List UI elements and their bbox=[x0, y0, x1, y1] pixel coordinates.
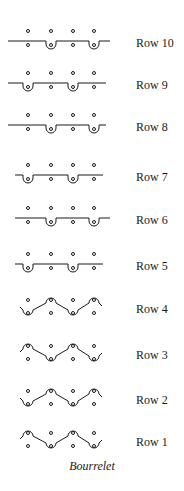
needle-icon bbox=[27, 128, 30, 131]
needle-icon bbox=[72, 445, 75, 448]
row-label: Row 6 bbox=[136, 213, 168, 227]
needle-icon bbox=[72, 44, 75, 47]
needle-icon bbox=[72, 390, 75, 393]
yarn-tail bbox=[99, 440, 102, 443]
needle-icon bbox=[50, 221, 53, 224]
needle-icon bbox=[50, 178, 53, 181]
needle-icon bbox=[27, 253, 30, 256]
yarn-path bbox=[78, 394, 89, 401]
yarn-path bbox=[78, 303, 89, 310]
yarn-path bbox=[78, 349, 89, 356]
stitch-row bbox=[20, 344, 102, 361]
needle-icon bbox=[27, 86, 30, 89]
needle-icon bbox=[27, 72, 30, 75]
needle-icon bbox=[27, 44, 30, 47]
needle-icon bbox=[27, 178, 30, 181]
needle-icon bbox=[72, 207, 75, 210]
yarn-tail bbox=[20, 398, 23, 401]
yarn-path bbox=[15, 175, 103, 183]
needle-icon bbox=[27, 267, 30, 270]
yarn-path bbox=[33, 436, 46, 443]
needle-icon bbox=[50, 345, 53, 348]
needle-icon bbox=[72, 86, 75, 89]
yarn-tail bbox=[20, 436, 23, 439]
yarn-tail bbox=[20, 349, 23, 352]
needle-icon bbox=[50, 128, 53, 131]
needle-icon bbox=[27, 207, 30, 210]
row-label: Row 2 bbox=[136, 393, 168, 407]
needle-icon bbox=[50, 44, 53, 47]
row-label: Row 10 bbox=[136, 36, 174, 50]
stitch-row bbox=[15, 164, 103, 184]
row-label: Row 8 bbox=[136, 120, 168, 134]
yarn-path bbox=[56, 436, 68, 443]
needle-icon bbox=[93, 390, 96, 393]
needle-icon bbox=[27, 390, 30, 393]
row-label: Row 5 bbox=[136, 259, 168, 273]
needle-icon bbox=[50, 253, 53, 256]
needle-icon bbox=[50, 207, 53, 210]
yarn-path bbox=[8, 125, 106, 133]
stitch-row bbox=[20, 389, 102, 406]
needle-icon bbox=[72, 72, 75, 75]
needle-icon bbox=[93, 432, 96, 435]
needle-icon bbox=[93, 345, 96, 348]
needle-icon bbox=[72, 221, 75, 224]
needle-icon bbox=[72, 128, 75, 131]
needle-icon bbox=[50, 299, 53, 302]
row-label: Row 1 bbox=[136, 435, 168, 449]
yarn-path bbox=[8, 41, 110, 49]
needle-icon bbox=[93, 403, 96, 406]
needle-icon bbox=[93, 253, 96, 256]
yarn-path bbox=[33, 303, 46, 310]
needle-icon bbox=[72, 114, 75, 117]
needle-icon bbox=[93, 44, 96, 47]
diagram-caption: Bourrelet bbox=[0, 459, 184, 474]
needle-icon bbox=[93, 72, 96, 75]
needle-icon bbox=[93, 128, 96, 131]
yarn-path bbox=[56, 394, 68, 401]
needle-icon bbox=[93, 114, 96, 117]
stitch-row bbox=[20, 431, 102, 448]
needle-icon bbox=[27, 221, 30, 224]
needle-icon bbox=[93, 221, 96, 224]
needle-icon bbox=[50, 390, 53, 393]
needle-icon bbox=[93, 86, 96, 89]
stitch-row bbox=[20, 298, 102, 315]
row-label: Row 9 bbox=[136, 78, 168, 92]
needle-icon bbox=[50, 267, 53, 270]
stitch-row bbox=[8, 114, 106, 134]
needle-icon bbox=[72, 164, 75, 167]
needle-icon bbox=[72, 178, 75, 181]
needle-icon bbox=[50, 114, 53, 117]
needle-icon bbox=[50, 358, 53, 361]
yarn-path bbox=[33, 349, 46, 356]
needle-icon bbox=[50, 403, 53, 406]
needle-icon bbox=[27, 358, 30, 361]
yarn-path bbox=[15, 264, 103, 272]
yarn-path bbox=[33, 394, 46, 401]
needle-icon bbox=[93, 178, 96, 181]
needle-icon bbox=[50, 312, 53, 315]
needle-icon bbox=[27, 299, 30, 302]
needle-icon bbox=[72, 253, 75, 256]
yarn-path bbox=[78, 436, 89, 443]
stitch-row bbox=[8, 30, 110, 50]
needle-icon bbox=[50, 432, 53, 435]
stitch-row bbox=[15, 207, 110, 227]
needle-icon bbox=[27, 164, 30, 167]
needle-icon bbox=[72, 432, 75, 435]
needle-icon bbox=[50, 164, 53, 167]
needle-icon bbox=[72, 30, 75, 33]
needle-icon bbox=[72, 358, 75, 361]
needle-icon bbox=[72, 267, 75, 270]
yarn-path bbox=[56, 349, 68, 356]
needle-icon bbox=[93, 358, 96, 361]
yarn-tail bbox=[99, 303, 102, 306]
needle-icon bbox=[50, 30, 53, 33]
needle-icon bbox=[72, 403, 75, 406]
needle-icon bbox=[27, 345, 30, 348]
yarn-tail bbox=[20, 307, 23, 310]
needle-icon bbox=[93, 164, 96, 167]
row-label: Row 7 bbox=[136, 170, 168, 184]
